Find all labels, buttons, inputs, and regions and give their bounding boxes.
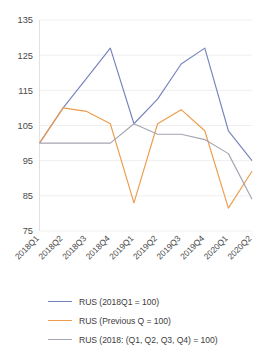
legend-color-swatch-series-1: [48, 301, 72, 302]
x-tick-label: 2018Q1: [13, 233, 41, 261]
legend-item-series-1[interactable]: RUS (2018Q1 = 100): [0, 292, 256, 311]
series-line-2: [40, 108, 253, 208]
y-tick-label: 115: [18, 86, 33, 96]
chart-legend: RUS (2018Q1 = 100) RUS (Previous Q = 100…: [0, 292, 256, 354]
y-tick-label: 105: [17, 121, 33, 131]
legend-item-series-3[interactable]: RUS (2018: (Q1, Q2, Q3, Q4) = 100): [0, 330, 256, 349]
x-axis-tick-labels: 2018Q12018Q22018Q32018Q42019Q12019Q22019…: [13, 233, 254, 261]
y-axis-tick-labels: 758595105115125135: [17, 15, 33, 236]
x-tick-label: 2019Q4: [178, 233, 206, 261]
x-tick-label: 2020Q1: [202, 233, 230, 261]
y-tick-label: 95: [23, 156, 33, 166]
y-tick-label: 125: [17, 51, 33, 61]
gridlines-group: [40, 20, 253, 231]
y-tick-label: 135: [17, 15, 33, 25]
y-tick-label: 85: [23, 191, 33, 201]
series-line-1: [40, 48, 253, 161]
x-tick-label: 2018Q2: [36, 233, 64, 261]
x-tick-label: 2020Q2: [225, 233, 253, 261]
legend-color-swatch-series-2: [48, 320, 72, 321]
legend-label-series-2: RUS (Previous Q = 100): [79, 316, 171, 326]
legend-label-series-3: RUS (2018: (Q1, Q2, Q3, Q4) = 100): [79, 335, 218, 345]
data-series-group: [40, 48, 253, 208]
x-tick-label: 2019Q1: [107, 233, 135, 261]
x-tick-label: 2018Q4: [84, 233, 112, 261]
legend-item-series-2[interactable]: RUS (Previous Q = 100): [0, 311, 256, 330]
line-chart: 758595105115125135 2018Q12018Q22018Q3201…: [0, 0, 256, 361]
x-tick-label: 2018Q3: [60, 233, 88, 261]
legend-color-swatch-series-3: [48, 339, 72, 340]
x-tick-label: 2019Q3: [154, 233, 182, 261]
x-tick-label: 2019Q2: [131, 233, 159, 261]
legend-label-series-1: RUS (2018Q1 = 100): [79, 297, 159, 307]
